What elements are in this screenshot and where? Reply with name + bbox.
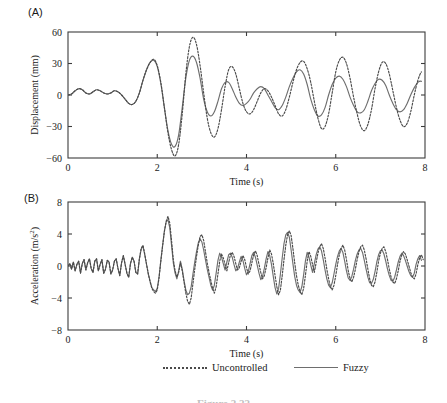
y-tick-label: −8 (51, 325, 62, 336)
x-tick-label: 0 (66, 334, 71, 345)
panel-a-plot: 02468−60−3003060Time (s)Displacement (mm… (0, 0, 447, 195)
x-tick-label: 0 (66, 162, 71, 173)
series-fuzzy (68, 220, 421, 295)
x-axis-title: Time (s) (230, 176, 264, 188)
figure-legend: Uncontrolled Fuzzy (0, 362, 447, 380)
x-tick-label: 8 (423, 162, 428, 173)
y-tick-label: −4 (51, 293, 62, 304)
x-tick-label: 6 (333, 162, 338, 173)
solid-line-icon (294, 367, 338, 369)
y-tick-label: −30 (46, 121, 62, 132)
x-tick-label: 6 (333, 334, 338, 345)
legend-label-uncontrolled: Uncontrolled (212, 362, 267, 373)
figure-caption: Figure 2.22 (0, 393, 447, 403)
y-tick-label: 60 (52, 27, 62, 38)
y-tick-label: 4 (57, 229, 62, 240)
y-axis-title: Displacement (mm) (29, 55, 41, 135)
x-tick-label: 8 (423, 334, 428, 345)
dotted-line-icon (163, 367, 207, 369)
y-tick-label: 0 (57, 261, 62, 272)
y-tick-label: 0 (57, 90, 62, 101)
legend-entry-fuzzy: Fuzzy (294, 362, 369, 373)
series-uncontrolled (68, 37, 421, 156)
y-tick-label: 8 (57, 197, 62, 208)
panel-b: (B) 02468−8−4048Time (s)Acceleration (m/… (0, 188, 447, 363)
panel-b-plot: 02468−8−4048Time (s)Acceleration (m/s2) (0, 188, 447, 363)
x-tick-label: 2 (155, 334, 160, 345)
panel-a: (A) 02468−60−3003060Time (s)Displacement… (0, 0, 447, 195)
x-tick-label: 2 (155, 162, 160, 173)
x-tick-label: 4 (244, 334, 249, 345)
y-axis-title: Acceleration (m/s2) (28, 227, 41, 305)
figure-container: (A) 02468−60−3003060Time (s)Displacement… (0, 0, 447, 403)
x-axis-title: Time (s) (230, 348, 264, 360)
series-uncontrolled (68, 216, 423, 304)
series-fuzzy (68, 56, 421, 147)
y-tick-label: −60 (46, 153, 62, 164)
x-tick-label: 4 (244, 162, 249, 173)
legend-entry-uncontrolled: Uncontrolled (163, 362, 267, 373)
y-tick-label: 30 (52, 58, 62, 69)
legend-label-fuzzy: Fuzzy (343, 362, 369, 373)
